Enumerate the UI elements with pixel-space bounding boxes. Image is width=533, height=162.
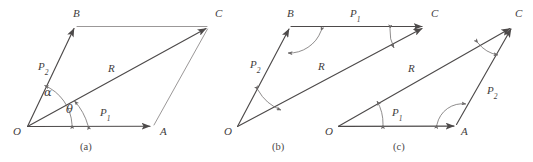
panel-b-vertex-label-O: O [224, 126, 232, 137]
panel-a-construction-ac [154, 29, 208, 125]
panel-a-vector-r [28, 29, 207, 127]
panel-a-caption: (a) [80, 141, 92, 152]
panel-c-vertex-label-A: A [461, 126, 468, 137]
panel-a-vector-label-p1: P1 [100, 107, 110, 121]
panel-b-vector-label-r: R [318, 61, 325, 72]
panel-b-vertex-label-B: B [287, 8, 294, 19]
panel-b-vector-p2 [238, 29, 290, 127]
panel-a-vertex-label-C: C [215, 8, 222, 19]
panel-b-vertex-label-C: C [431, 8, 438, 19]
figure-svg [0, 0, 533, 162]
panel-c-vector-label-p2: P2 [487, 85, 497, 99]
panel-a-vector-label-r: R [108, 63, 115, 74]
panel-a-angle-label-alpha: α [44, 87, 52, 99]
panel-a-vertex-label-O: O [13, 126, 21, 137]
figure-container: O A B C P1 P2 R α θ (a) O B C P2 P1 R (b… [0, 0, 533, 162]
panel-c-vector-label-p1: P1 [392, 107, 402, 121]
panel-a-angle-theta-arc [75, 101, 89, 126]
panel-a-vertex-label-B: B [73, 8, 80, 19]
panel-a-vertex-label-A: A [160, 126, 167, 137]
panel-b-angle-o-arc [258, 90, 281, 110]
panel-b-vector-label-p2: P2 [250, 59, 260, 73]
panel-a-vector-label-p2: P2 [38, 61, 48, 75]
panel-c-caption: (c) [393, 141, 405, 152]
panel-a-angle-label-theta: θ [66, 104, 73, 116]
panel-c-vector-r [339, 29, 511, 127]
panel-b-vector-label-p1: P1 [350, 8, 360, 22]
panel-c-geometry [339, 29, 512, 127]
panel-a-geometry [28, 27, 208, 127]
panel-c-angle-o-arc [377, 101, 383, 125]
panel-c-angle-a-arc [437, 104, 466, 125]
panel-c-vector-label-r: R [408, 63, 415, 74]
panel-b-angle-b-arc [288, 31, 321, 53]
panel-b-caption: (b) [272, 141, 284, 152]
panel-c-vertex-label-C: C [515, 8, 522, 19]
panel-c-vertex-label-O: O [325, 126, 333, 137]
